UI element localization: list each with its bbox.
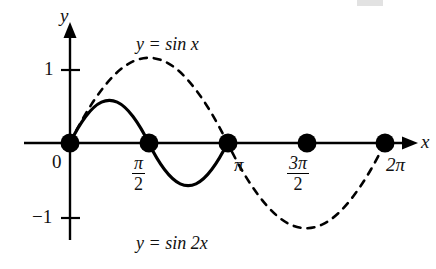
sine-curves-figure: y x 1 −1 0 π 2 π 3π 2 2π y = sin x y = s… <box>0 0 436 269</box>
fraction-denominator: 2 <box>132 174 145 193</box>
x-tick-label-pi-over-2: π 2 <box>132 154 145 193</box>
x-tick-label-pi: π <box>234 155 244 174</box>
plot-canvas <box>0 0 436 269</box>
x-axis-arrowhead <box>402 137 418 150</box>
x-axis-label: x <box>421 132 429 151</box>
x-tick-label-2pi: 2π <box>386 155 405 174</box>
y-tick-label-one: 1 <box>44 59 54 78</box>
curve-label-sin-x: y = sin x <box>136 35 199 53</box>
fraction-3pi-over-2: 3π 2 <box>287 154 309 193</box>
fraction-numerator: π <box>132 154 145 174</box>
point-0 <box>61 134 80 153</box>
fraction-denominator: 2 <box>287 174 309 193</box>
fraction-pi-over-2: π 2 <box>132 154 145 193</box>
point-pi-over-2 <box>140 134 159 153</box>
y-axis-label: y <box>60 6 68 25</box>
fraction-numerator: 3π <box>287 154 309 174</box>
point-2pi <box>376 134 395 153</box>
point-3pi-over-2 <box>298 134 317 153</box>
point-pi <box>219 134 238 153</box>
x-tick-label-origin: 0 <box>52 152 62 171</box>
x-tick-label-3pi-over-2: 3π 2 <box>287 154 309 193</box>
curve-label-sin-2x: y = sin 2x <box>136 234 208 252</box>
y-tick-label-negative-one: −1 <box>32 207 52 226</box>
